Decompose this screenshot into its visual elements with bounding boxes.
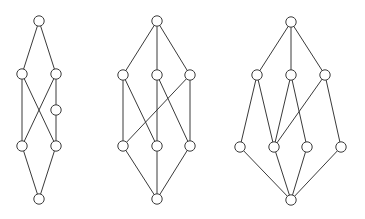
node-u1	[252, 70, 262, 80]
node-a	[17, 69, 27, 79]
edge-top-u3	[291, 22, 325, 75]
node-l3	[302, 142, 312, 152]
edge-top-u3	[157, 21, 190, 75]
node-top	[34, 16, 44, 26]
edge-l2-bottom	[274, 147, 291, 200]
node-bottom	[34, 194, 44, 204]
edge-top-u1	[257, 22, 291, 75]
node-d	[17, 141, 27, 151]
node-l1	[235, 142, 245, 152]
lattice-diagram-3	[235, 17, 346, 205]
edge-l3-bottom	[157, 146, 190, 199]
edge-top-b	[39, 21, 56, 74]
edge-u3-l4	[325, 75, 341, 147]
edge-u2-l2	[274, 75, 291, 147]
edge-u2-l3	[157, 75, 190, 146]
edge-d-bottom	[22, 146, 39, 199]
node-u3	[185, 70, 195, 80]
hasse-diagrams-figure	[0, 0, 365, 219]
edge-u3-l2	[274, 75, 325, 147]
node-u2	[286, 70, 296, 80]
edge-e-bottom	[39, 146, 56, 199]
node-u2	[152, 70, 162, 80]
node-bottom	[152, 194, 162, 204]
node-top	[152, 16, 162, 26]
node-l2	[269, 142, 279, 152]
node-top	[286, 17, 296, 27]
node-l3	[185, 141, 195, 151]
node-c	[51, 105, 61, 115]
node-l2	[152, 141, 162, 151]
node-u1	[118, 70, 128, 80]
edge-top-a	[22, 21, 39, 74]
node-bottom	[286, 195, 296, 205]
node-e	[51, 141, 61, 151]
edge-u1-l2	[123, 75, 157, 146]
node-l4	[336, 142, 346, 152]
edge-l1-bottom	[240, 147, 291, 200]
edge-top-u1	[123, 21, 157, 75]
edge-l1-bottom	[123, 146, 157, 199]
node-l1	[118, 141, 128, 151]
edge-u1-l1	[240, 75, 257, 147]
lattice-diagram-2	[118, 16, 195, 204]
lattice-diagram-1	[17, 16, 61, 204]
node-u3	[320, 70, 330, 80]
edge-u1-l2	[257, 75, 274, 147]
node-b	[51, 69, 61, 79]
